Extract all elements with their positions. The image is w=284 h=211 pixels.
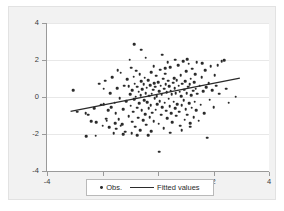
scatter-point [209,65,212,68]
scatter-plot-screenshot: -4-2024 -4-2024 Obs. Fitted values [0,0,284,211]
scatter-point [114,122,117,125]
scatter-point [126,78,129,81]
scatter-point [192,116,195,119]
scatter-point [211,89,214,92]
scatter-point [168,105,171,108]
scatter-point [130,66,133,69]
scatter-point [130,105,133,108]
scatter-point [72,89,75,92]
scatter-point [212,106,215,109]
scatter-point [104,79,107,82]
scatter-point [134,125,137,128]
chart-panel: -4-2024 -4-2024 Obs. Fitted values [8,6,276,200]
scatter-point [176,79,179,82]
scatter-point [152,120,155,123]
scatter-point [132,111,135,114]
scatter-point [115,128,118,131]
scatter-point [112,132,115,135]
scatter-point [183,88,186,91]
scatter-point [189,122,192,125]
y-axis-tick-label: 4 [23,19,39,27]
scatter-point [208,98,211,101]
scatter-point [227,101,230,104]
scatter-point [140,49,143,52]
scatter-point [172,81,175,84]
scatter-point [157,81,160,84]
scatter-point [102,103,105,106]
scatter-point [184,108,187,111]
scatter-point [150,130,153,133]
scatter-point [158,90,161,93]
scatter-point [191,68,194,71]
scatter-point [185,70,188,73]
scatter-point [199,103,202,106]
scatter-point [154,108,157,111]
scatter-point [169,66,172,69]
scatter-point [189,78,192,81]
scatter-point [158,150,161,153]
scatter-point [177,64,180,67]
scatter-point [174,58,177,61]
scatter-point [152,88,155,91]
scatter-point [144,113,147,116]
scatter-point [176,103,179,106]
scatter-point [143,76,146,79]
scatter-point [175,115,178,118]
scatter-point [138,102,141,105]
scatter-point [105,119,108,122]
legend-label-obs: Obs. [106,184,122,192]
x-axis-tick [269,172,270,176]
scatter-point [157,123,160,126]
scatter-point [186,58,189,61]
scatter-point [173,87,176,90]
scatter-point [122,133,125,136]
scatter-point [181,104,184,107]
scatter-point [151,111,154,114]
scatter-point [183,118,186,121]
legend-dot-icon [100,186,103,189]
scatter-point [163,87,166,90]
scatter-point [204,69,207,72]
scatter-point [174,107,177,110]
scatter-point [153,97,156,100]
x-axis-tick [103,172,104,176]
y-axis-line [46,23,47,172]
scatter-point [132,75,135,78]
scatter-point [119,124,122,127]
scatter-point [85,112,88,115]
scatter-point [174,92,177,95]
scatter-point [194,73,197,76]
scatter-point [108,126,111,129]
scatter-point [107,109,110,112]
scatter-point [120,71,123,74]
scatter-point [193,100,196,103]
scatter-point [162,127,165,130]
scatter-point [179,74,182,77]
scatter-point [111,76,114,79]
x-axis-tick [214,172,215,176]
scatter-point [113,101,116,104]
scatter-point [131,89,134,92]
scatter-point [147,79,150,82]
scatter-point [137,116,140,119]
y-axis-tick-label: -4 [23,167,39,175]
x-axis-tick-label: 4 [260,178,278,186]
scatter-point [90,120,93,123]
scatter-point [169,89,172,92]
scatter-point [118,97,121,100]
scatter-point [180,129,183,132]
scatter-point [129,93,132,96]
scatter-point [137,91,140,94]
y-axis-tick [42,97,46,98]
scatter-point [234,95,237,98]
scatter-point [94,135,97,138]
scatter-point [216,64,219,67]
scatter-point [133,98,136,101]
scatter-point [125,100,128,103]
scatter-point [136,86,139,89]
scatter-point [158,100,161,103]
scatter-point [186,113,189,116]
scatter-point [170,112,173,115]
scatter-point [146,86,149,89]
scatter-point [171,121,174,124]
